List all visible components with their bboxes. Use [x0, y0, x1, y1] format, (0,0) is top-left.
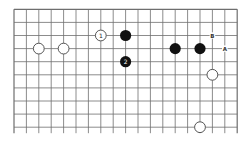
black-stone: [120, 30, 131, 41]
black-stone: 2: [120, 56, 131, 67]
black-stone: [194, 43, 205, 54]
svg-text:B: B: [210, 33, 214, 39]
white-stone: [58, 43, 69, 54]
white-stone: [195, 122, 206, 133]
svg-text:A: A: [223, 46, 228, 52]
point-label-a: A: [222, 45, 228, 51]
white-stone: 1: [95, 30, 106, 41]
board-grid: [14, 9, 237, 133]
stone-move-number: 2: [124, 58, 128, 65]
point-label-b: B: [210, 32, 216, 38]
white-stone: [207, 69, 218, 80]
white-stone: [33, 43, 44, 54]
black-stone: [170, 43, 181, 54]
stone-move-number: 1: [99, 32, 103, 39]
go-board: 12 BA: [0, 0, 249, 141]
